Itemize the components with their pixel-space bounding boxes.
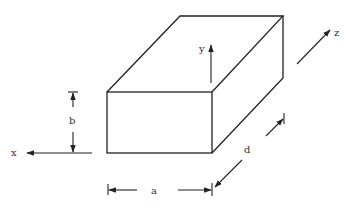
y-axis-label: y bbox=[198, 43, 205, 54]
height-dimension: b bbox=[68, 92, 78, 152]
z-axis: z bbox=[297, 27, 339, 64]
z-axis-label: z bbox=[334, 27, 339, 38]
box-diagram: y z x b a d bbox=[0, 0, 348, 210]
height-label: b bbox=[69, 115, 75, 126]
width-dimension: a bbox=[108, 183, 212, 196]
front-face bbox=[107, 92, 212, 153]
x-axis-label: x bbox=[11, 147, 17, 158]
depth-dimension: d bbox=[215, 113, 284, 187]
width-label: a bbox=[151, 185, 157, 196]
top-face bbox=[107, 16, 283, 92]
y-axis: y bbox=[198, 43, 211, 83]
x-axis: x bbox=[11, 147, 92, 158]
depth-label: d bbox=[244, 144, 251, 155]
box bbox=[107, 16, 283, 153]
right-face bbox=[212, 16, 283, 153]
